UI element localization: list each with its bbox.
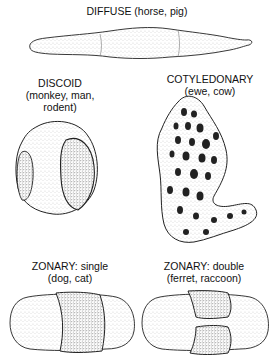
diffuse-label: DIFFUSE (horse, pig) bbox=[0, 5, 274, 17]
zonary-double-label: ZONARY: double (ferret, raccoon) bbox=[136, 260, 272, 284]
discoid-sub-line-1: (monkey, man, bbox=[5, 89, 115, 101]
diffuse-heading: DIFFUSE (horse, pig) bbox=[0, 5, 274, 17]
zonary-double-heading: ZONARY: double bbox=[136, 260, 272, 272]
discoid-sub-line-2: rodent) bbox=[5, 101, 115, 113]
zonary-single-heading: ZONARY: single bbox=[5, 260, 135, 272]
discoid-placenta-illustration bbox=[8, 118, 108, 218]
diffuse-placenta-illustration bbox=[20, 22, 260, 64]
cotyledonary-placenta-illustration bbox=[150, 92, 270, 252]
zonary-double-sub: (ferret, raccoon) bbox=[136, 272, 272, 284]
cotyledonary-heading: COTYLEDONARY bbox=[150, 73, 270, 85]
zonary-double-placenta-illustration bbox=[140, 291, 270, 353]
zonary-single-label: ZONARY: single (dog, cat) bbox=[5, 260, 135, 284]
zonary-single-placenta-illustration bbox=[8, 291, 136, 353]
discoid-label: DISCOID (monkey, man, rodent) bbox=[5, 77, 115, 113]
zonary-single-sub: (dog, cat) bbox=[5, 272, 135, 284]
discoid-heading: DISCOID bbox=[5, 77, 115, 89]
